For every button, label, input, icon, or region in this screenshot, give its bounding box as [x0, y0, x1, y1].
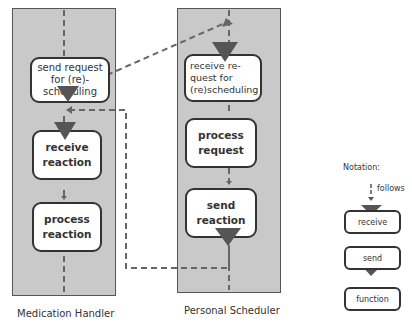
node-line: reaction — [43, 227, 92, 242]
legend-title: Notation: — [343, 163, 380, 172]
node-line: scheduling — [37, 86, 102, 98]
node-line: reaction — [43, 155, 92, 170]
node-line: (re)scheduling — [190, 84, 258, 96]
legend-send-label: send — [363, 254, 382, 263]
message-arrowhead-request — [222, 18, 233, 27]
node-line: reaction — [197, 213, 246, 228]
node-send-request[interactable]: send request for (re)- scheduling — [30, 57, 110, 103]
legend-follows-label: follows — [377, 184, 405, 193]
lane-label-personal-scheduler: Personal Scheduler — [184, 305, 280, 316]
node-line: process — [198, 128, 244, 143]
node-line: receive — [43, 140, 92, 155]
node-line: for (re)- — [37, 74, 102, 86]
node-line: process — [43, 212, 92, 227]
legend-receive: receive — [344, 210, 401, 234]
lane-label-medication-handler: Medication Handler — [17, 308, 114, 319]
legend-receive-label: receive — [358, 218, 387, 227]
node-receive-reaction[interactable]: receive reaction — [32, 130, 102, 180]
node-line: quest for — [190, 72, 258, 84]
follows-arrowhead — [61, 196, 67, 200]
follows-arrowhead — [226, 181, 232, 185]
node-line: receive re- — [190, 60, 258, 72]
message-arrowhead-reaction — [66, 106, 72, 114]
node-receive-request[interactable]: receive re- quest for (re)scheduling — [184, 54, 262, 102]
node-line: send request — [37, 62, 102, 74]
legend-send: send — [344, 246, 401, 270]
node-send-reaction[interactable]: send reaction — [185, 188, 257, 238]
node-process-request[interactable]: process request — [185, 118, 257, 168]
node-line: request — [198, 143, 244, 158]
legend-function-label: function — [356, 295, 389, 304]
node-line: send — [197, 198, 246, 213]
node-process-reaction[interactable]: process reaction — [32, 202, 102, 252]
legend-function: function — [344, 287, 401, 311]
